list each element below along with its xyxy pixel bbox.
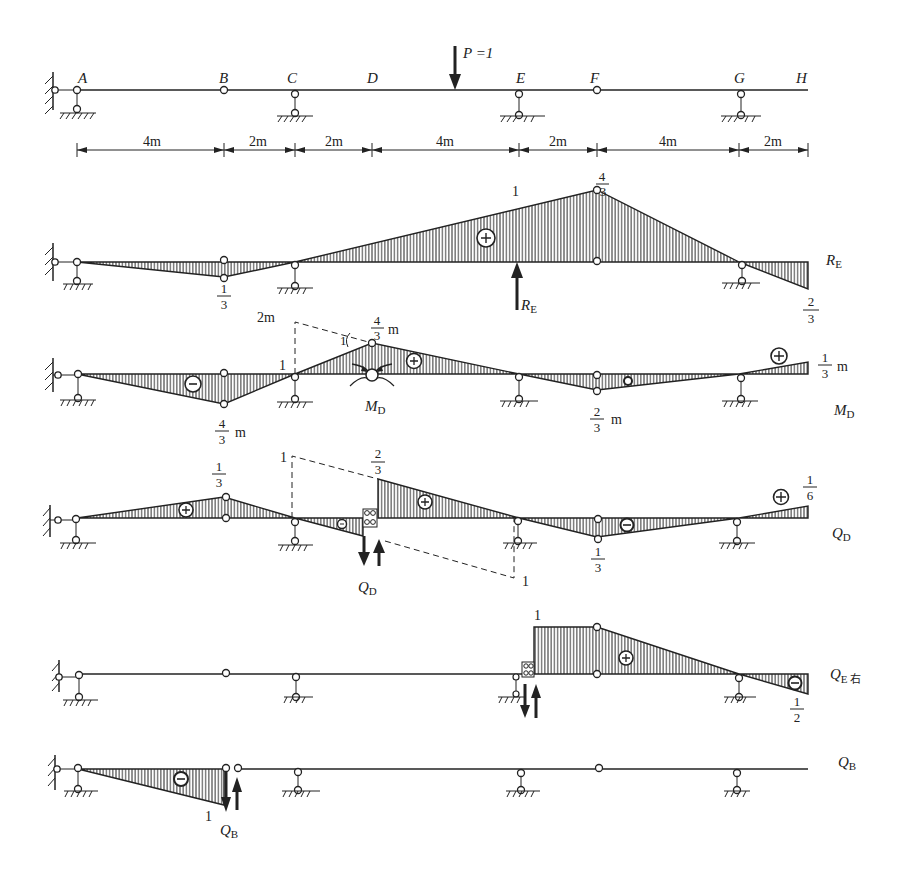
svg-text:2: 2 [794, 710, 801, 725]
support-c-icon [277, 262, 313, 295]
negative-sign-icon [174, 772, 188, 786]
dim-bc: 2m [249, 134, 267, 149]
hinge-f-icon [594, 671, 601, 678]
positive-sign-icon [771, 348, 787, 364]
influence-line-diagram: A B C D E F G H P =1 4m 2m 2m 4m 2m 4m 2… [0, 0, 903, 879]
negative-sign-icon [338, 520, 347, 529]
dim-fg: 4m [659, 134, 677, 149]
svg-text:3: 3 [216, 475, 223, 490]
wall-support-icon [43, 505, 77, 537]
wall-support-icon [45, 358, 77, 392]
arrow-label-qd: QD [358, 579, 377, 597]
ordinate-label-fraction: 1 3 m [818, 350, 848, 381]
support-e-icon [506, 770, 540, 798]
ordinate-label: 1 [512, 184, 519, 199]
support-c-icon [282, 769, 320, 798]
hinge-f-icon [594, 258, 601, 265]
diagram-label-md: MD [833, 402, 855, 420]
svg-text:3: 3 [219, 432, 226, 447]
svg-text:2: 2 [808, 294, 815, 309]
svg-text:3: 3 [375, 462, 382, 477]
shear-release-icon [363, 509, 377, 527]
dim-gh: 2m [764, 134, 782, 149]
hinge-f-icon [596, 765, 603, 772]
svg-text:4: 4 [219, 416, 226, 431]
hinge-b-icon [223, 494, 230, 501]
support-e-icon [498, 674, 524, 703]
construction-dashed-line [385, 518, 514, 578]
diagram-label-qe-right: QE 右 [830, 666, 861, 685]
svg-text:3: 3 [822, 366, 829, 381]
positive-sign-icon [774, 490, 789, 505]
point-label-f: F [589, 70, 600, 86]
positive-sign-icon [619, 651, 633, 665]
positive-sign-icon [477, 229, 495, 247]
hinge-b-icon [221, 401, 228, 408]
influence-line-re: RE 1 4 3 1 3 2 3 RE [45, 169, 842, 326]
support-a-icon [60, 516, 96, 550]
support-e-icon [500, 91, 545, 123]
svg-text:1: 1 [216, 459, 223, 474]
dim-ef: 2m [549, 134, 567, 149]
arrow-label-qb: QB [220, 822, 238, 840]
svg-text:3: 3 [595, 560, 602, 575]
negative-sign-icon [789, 677, 802, 690]
hinge-b-icon [221, 370, 228, 377]
load-label: P =1 [462, 45, 493, 61]
beam-structure: A B C D E F G H P =1 4m 2m 2m 4m 2m 4m 2… [45, 45, 808, 157]
support-g-icon [736, 675, 743, 682]
arrow-label-md: MD [364, 398, 386, 416]
svg-text:1: 1 [807, 472, 814, 487]
unit-slope-label: 1 [340, 333, 347, 348]
point-label-e: E [515, 70, 525, 86]
dashed-left-label: 1 [280, 450, 287, 465]
hinge-f-icon [595, 536, 602, 543]
svg-text:3: 3 [600, 184, 607, 199]
point-label-d: D [366, 70, 378, 86]
hinge-f-icon [594, 388, 601, 395]
negative-sign-icon [621, 519, 634, 532]
hinge-b-icon [221, 257, 228, 264]
point-label-c: C [287, 70, 298, 86]
hinge-b-icon [223, 670, 230, 677]
svg-text:2: 2 [594, 404, 601, 419]
dim-cd: 2m [325, 134, 343, 149]
hinge-f-icon [595, 516, 602, 523]
ordinate-label-fraction: 2 3 m [590, 404, 622, 435]
svg-text:4: 4 [599, 169, 606, 184]
point-label-b: B [219, 70, 228, 86]
positive-sign-icon [179, 503, 193, 517]
left-one-label: 1 [279, 358, 286, 373]
svg-text:m: m [235, 425, 246, 440]
hinge-b-left-icon [223, 765, 230, 772]
dashed-height-label: 2m [257, 310, 275, 325]
support-g-icon [734, 519, 741, 526]
ordinate-label: 1 [205, 809, 212, 824]
svg-text:1: 1 [822, 350, 829, 365]
load-p-arrow-icon [449, 46, 461, 90]
shear-force-arrow-up-icon [531, 684, 541, 718]
angle-arc-icon [346, 333, 350, 347]
hinge-f-icon [594, 372, 601, 379]
wall-support-icon [48, 755, 78, 790]
diagram-label-qb: QB [838, 754, 856, 772]
ordinate-label-fraction: 4 3 m [371, 313, 399, 343]
ordinate-label-fraction: 2 3 [371, 446, 385, 477]
negative-sign-icon [185, 376, 201, 392]
hinge-b-icon [221, 87, 228, 94]
svg-text:m: m [837, 359, 848, 374]
wall-support-icon [52, 660, 79, 692]
ordinate-label-fraction: 1 3 [212, 459, 226, 490]
ordinate-label-fraction: 1 3 [591, 544, 605, 575]
support-c-icon [278, 519, 313, 552]
wall-support-icon [45, 243, 77, 281]
svg-text:3: 3 [374, 328, 381, 343]
negative-sign-icon [624, 377, 632, 385]
hinge-b-right-icon [235, 765, 242, 772]
shear-force-arrow-up-icon [232, 777, 242, 810]
shear-force-arrow-down-icon [358, 536, 370, 566]
ordinate-label: 1 [534, 608, 541, 623]
support-c-icon [284, 674, 313, 704]
influence-line-md: 1 2m 1 [45, 310, 855, 447]
shear-force-arrow-up-icon [373, 539, 385, 566]
